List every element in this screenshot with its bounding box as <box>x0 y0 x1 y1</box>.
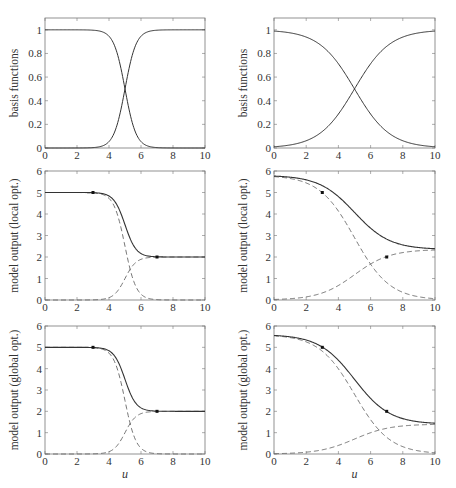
x-tick-label: 10 <box>200 149 212 161</box>
plot-frame <box>45 18 205 148</box>
y-tick-label: 0 <box>37 294 43 306</box>
plot-middle-right: 02468100123456model output (local opt.) <box>237 165 441 313</box>
plot-frame <box>45 171 205 300</box>
y-tick-label: 1 <box>266 273 272 285</box>
y-tick-label: 3 <box>37 384 43 396</box>
data-point-marker <box>156 410 159 413</box>
y-tick-label: 1 <box>37 273 43 285</box>
y-axis-label: model output (local opt.) <box>237 178 250 293</box>
basis-curve <box>274 31 435 147</box>
y-tick-label: 6 <box>266 165 272 177</box>
x-tick-label: 4 <box>336 455 342 467</box>
y-tick-label: 1 <box>266 427 272 439</box>
local-model-1-contribution <box>45 347 205 454</box>
basis-curve <box>45 30 205 148</box>
plot-top-left: 024681000.20.40.60.81basis functions <box>8 18 211 161</box>
local-model-1-contribution <box>45 193 205 301</box>
local-model-2-contribution <box>274 250 435 299</box>
x-tick-label: 6 <box>368 149 374 161</box>
x-tick-label: 0 <box>271 455 277 467</box>
y-tick-label: 0.6 <box>28 71 42 83</box>
data-point-marker <box>92 346 95 349</box>
plot-frame <box>274 326 435 454</box>
y-tick-label: 6 <box>37 165 43 177</box>
y-tick-label: 2 <box>37 405 43 417</box>
data-point-marker <box>156 256 159 259</box>
y-tick-label: 5 <box>37 187 43 199</box>
y-tick-label: 0.4 <box>28 95 42 107</box>
y-axis-label: model output (global opt.) <box>8 329 21 450</box>
model-output-curve <box>45 193 205 258</box>
plot-bottom-right: 02468100123456model output (global opt.)… <box>237 320 441 481</box>
y-tick-label: 0 <box>37 448 43 460</box>
data-point-marker <box>385 410 388 413</box>
y-tick-label: 0 <box>266 142 272 154</box>
x-tick-label: 10 <box>430 301 442 313</box>
y-axis-label: basis functions <box>8 48 20 117</box>
data-point-marker <box>92 191 95 194</box>
x-tick-label: 8 <box>400 149 406 161</box>
y-tick-label: 4 <box>266 363 272 375</box>
x-tick-label: 4 <box>336 301 342 313</box>
x-tick-label: 0 <box>271 149 277 161</box>
y-tick-label: 5 <box>266 187 272 199</box>
y-tick-label: 0.2 <box>257 118 271 130</box>
x-tick-label: 10 <box>200 455 212 467</box>
y-tick-label: 3 <box>266 384 272 396</box>
x-tick-label: 6 <box>138 455 144 467</box>
x-tick-label: 10 <box>430 149 442 161</box>
x-tick-label: 4 <box>106 455 112 467</box>
x-tick-label: 4 <box>106 301 112 313</box>
data-point-marker <box>321 191 324 194</box>
y-tick-label: 2 <box>37 251 43 263</box>
x-tick-label: 8 <box>400 301 406 313</box>
y-tick-label: 0.8 <box>28 47 42 59</box>
y-tick-label: 0 <box>37 142 43 154</box>
y-tick-label: 0 <box>266 294 272 306</box>
x-tick-label: 2 <box>303 301 309 313</box>
y-tick-label: 6 <box>37 320 43 332</box>
x-tick-label: 2 <box>74 149 80 161</box>
y-tick-label: 0.8 <box>257 47 271 59</box>
model-output-curve <box>274 335 435 423</box>
x-tick-label: 0 <box>42 455 48 467</box>
plot-middle-left: 02468100123456model output (local opt.) <box>8 165 211 313</box>
x-tick-label: 10 <box>200 301 212 313</box>
local-model-2-contribution <box>45 411 205 454</box>
x-tick-label: 0 <box>42 301 48 313</box>
x-axis-label: u <box>122 467 128 481</box>
x-tick-label: 2 <box>74 301 80 313</box>
x-tick-label: 4 <box>336 149 342 161</box>
y-tick-label: 0.2 <box>28 118 42 130</box>
x-tick-label: 8 <box>170 455 176 467</box>
y-tick-label: 1 <box>37 24 43 36</box>
y-tick-label: 2 <box>266 251 272 263</box>
plot-frame <box>45 326 205 454</box>
plot-frame <box>274 18 435 148</box>
x-tick-label: 2 <box>74 455 80 467</box>
x-tick-label: 6 <box>368 301 374 313</box>
data-point-marker <box>321 346 324 349</box>
y-tick-label: 0.4 <box>257 95 271 107</box>
x-tick-label: 2 <box>303 455 309 467</box>
y-tick-label: 3 <box>37 230 43 242</box>
x-tick-label: 10 <box>430 455 442 467</box>
x-tick-label: 4 <box>106 149 112 161</box>
y-tick-label: 1 <box>266 24 272 36</box>
x-axis-label: u <box>352 467 358 481</box>
x-tick-label: 8 <box>170 301 176 313</box>
y-tick-label: 6 <box>266 320 272 332</box>
model-output-curve <box>45 347 205 411</box>
x-tick-label: 6 <box>138 149 144 161</box>
local-model-1-contribution <box>274 177 435 299</box>
data-point-marker <box>385 256 388 259</box>
y-tick-label: 4 <box>37 208 43 220</box>
plot-frame <box>274 171 435 300</box>
x-tick-label: 6 <box>138 301 144 313</box>
y-tick-label: 0.6 <box>257 71 271 83</box>
local-model-1-contribution <box>274 336 435 453</box>
y-tick-label: 5 <box>266 341 272 353</box>
y-tick-label: 3 <box>266 230 272 242</box>
local-model-2-contribution <box>45 257 205 300</box>
y-tick-label: 5 <box>37 341 43 353</box>
